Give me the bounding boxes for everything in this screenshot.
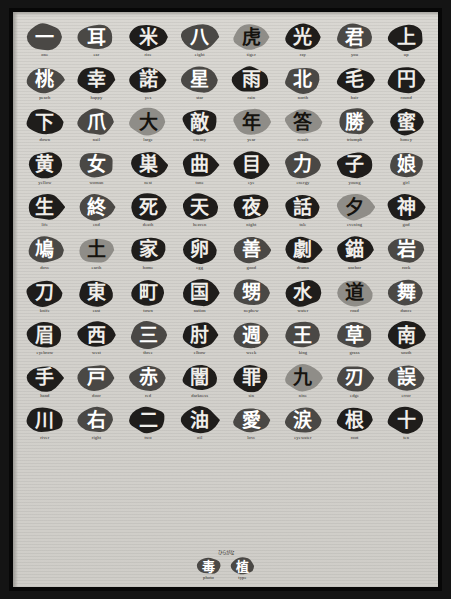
kanji-cell: 大large [122, 106, 174, 149]
kanji-stamp: 十 [385, 405, 427, 435]
kanji-stamp: 油 [179, 405, 221, 435]
kanji-stamp: 南 [385, 320, 427, 350]
kanji-label: yellow [38, 180, 51, 186]
kanji-cell: 子young [329, 149, 381, 192]
kanji-cell: 舞dance [380, 277, 432, 320]
kanji-glyph: 年 [242, 113, 261, 132]
kanji-label: grass [350, 350, 360, 356]
kanji-cell: 油oil [174, 404, 226, 447]
kanji-label: type [238, 575, 246, 581]
kanji-stamp: 下 [24, 107, 66, 137]
kanji-glyph: 三 [139, 326, 158, 345]
kanji-label: up [404, 52, 409, 58]
kanji-stamp: 神 [385, 192, 427, 222]
kanji-cell: 雨rain [226, 64, 278, 107]
kanji-stamp: 川 [24, 405, 66, 435]
kanji-cell: 死death [122, 191, 174, 234]
kanji-glyph: 週 [242, 326, 261, 345]
kanji-glyph: 誤 [397, 368, 416, 387]
kanji-cell: 川river [19, 404, 71, 447]
kanji-label: eyebrow [37, 350, 54, 356]
kanji-cell: 円round [380, 64, 432, 107]
kanji-label: oil [197, 435, 202, 441]
kanji-cell: 国nation [174, 277, 226, 320]
kanji-stamp: 毒 [194, 557, 224, 575]
kanji-label: happy [91, 95, 103, 101]
kanji-label: good [247, 265, 257, 271]
kanji-stamp: 円 [385, 65, 427, 95]
kanji-glyph: 植 [236, 560, 249, 573]
kanji-glyph: 眉 [35, 326, 54, 345]
kanji-label: eyewater [294, 435, 311, 441]
kanji-stamp: 女 [75, 150, 117, 180]
kanji-stamp: 甥 [230, 278, 272, 308]
kanji-stamp: 戸 [75, 363, 117, 393]
kanji-label: round [401, 95, 412, 101]
kanji-glyph: 勝 [345, 113, 364, 132]
kanji-cell: 愛love [226, 404, 278, 447]
kanji-stamp: 九 [282, 363, 324, 393]
kanji-label: photo [203, 575, 214, 581]
kanji-label: south [401, 350, 411, 356]
kanji-glyph: 八 [190, 28, 209, 47]
kanji-glyph: 卵 [190, 240, 209, 259]
kanji-cell: 刃edge [329, 362, 381, 405]
kanji-cell: 植type [227, 556, 259, 581]
kanji-cell: 闇darkness [174, 362, 226, 405]
kanji-stamp: 刃 [334, 363, 376, 393]
kanji-glyph: 根 [345, 411, 364, 430]
kanji-label: dove [40, 265, 49, 271]
kanji-label: you [351, 52, 358, 58]
kanji-cell: 劇drama [277, 234, 329, 277]
kanji-glyph: 十 [397, 411, 416, 430]
kanji-stamp: 巣 [127, 150, 169, 180]
kanji-cell: 黄yellow [19, 149, 71, 192]
kanji-glyph: 赤 [139, 368, 158, 387]
kanji-glyph: 目 [242, 155, 261, 174]
kanji-label: tiger [247, 52, 256, 58]
kanji-label: hair [351, 95, 359, 101]
kanji-cell: 根root [329, 404, 381, 447]
kanji-glyph: 答 [293, 113, 312, 132]
kanji-grid: 一one耳ear米rice八eight虎tiger光ray君you上up桃pea… [19, 21, 432, 447]
kanji-glyph: 上 [397, 28, 416, 47]
kanji-stamp: 闇 [179, 363, 221, 393]
kanji-stamp: 終 [75, 192, 117, 222]
kanji-label: nest [144, 180, 152, 186]
kanji-stamp: 王 [282, 320, 324, 350]
kanji-stamp: 生 [24, 192, 66, 222]
kanji-stamp: 爪 [75, 107, 117, 137]
kanji-label: darkness [191, 393, 208, 399]
kanji-glyph: 善 [242, 240, 261, 259]
kanji-glyph: 闇 [190, 368, 209, 387]
kanji-glyph: 夜 [242, 198, 261, 217]
kanji-cell: 北north [277, 64, 329, 107]
kanji-cell: 眉eyebrow [19, 319, 71, 362]
kanji-glyph: 死 [139, 198, 158, 217]
kanji-glyph: 話 [293, 198, 312, 217]
kanji-stamp: 岩 [385, 235, 427, 265]
kanji-cell: 誤error [380, 362, 432, 405]
kanji-stamp: 赤 [127, 363, 169, 393]
kanji-cell: 東east [71, 277, 123, 320]
kanji-cell: 週week [226, 319, 278, 362]
kanji-stamp: 雨 [230, 65, 272, 95]
kanji-label: anchor [348, 265, 361, 271]
kanji-glyph: 錨 [345, 240, 364, 259]
kanji-glyph: 毛 [345, 70, 364, 89]
kanji-label: three [143, 350, 153, 356]
kanji-label: knife [40, 308, 50, 314]
kanji-stamp: 刀 [24, 278, 66, 308]
kanji-cell: 王king [277, 319, 329, 362]
kanji-cell: 天heaven [174, 191, 226, 234]
kanji-label: river [40, 435, 49, 441]
kanji-cell: 錨anchor [329, 234, 381, 277]
kanji-cell: 答result [277, 106, 329, 149]
kanji-label: king [299, 350, 308, 356]
kanji-stamp: 耳 [75, 22, 117, 52]
kanji-stamp: 劇 [282, 235, 324, 265]
kanji-glyph: 円 [397, 70, 416, 89]
kanji-cell: 幸happy [71, 64, 123, 107]
kanji-cell: 蜜honey [380, 106, 432, 149]
kanji-stamp: 罪 [230, 363, 272, 393]
